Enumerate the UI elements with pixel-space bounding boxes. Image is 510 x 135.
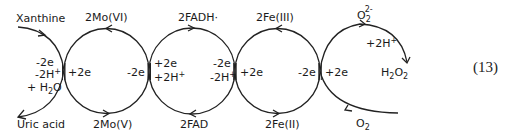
fad-plus2e-label: +2e [154, 57, 177, 70]
superoxide-label: O22- [357, 5, 373, 24]
mo-vi-label: 2Mo(VI) [85, 11, 128, 24]
arrow-o2 [345, 105, 352, 111]
fe-plus2e-label: +2e [240, 66, 263, 79]
fadh-label: 2FADH· [178, 11, 218, 24]
o2-plus2e-label: +2e [325, 66, 348, 79]
fe-iii-label: 2Fe(III) [256, 11, 294, 24]
fe-minus2e-label: -2e [298, 66, 316, 79]
mo-plus2e-label: +2e [68, 66, 91, 79]
fad-label: 2FAD [180, 118, 208, 131]
o2-label: O2 [356, 117, 370, 132]
protons-label: +2H+ [366, 36, 397, 50]
diagram-svg: Xanthine Uric acid -2e -2H+ + H2O 2Mo(VI… [0, 0, 510, 135]
mo-minus2e-label: -2e [127, 66, 145, 79]
equation-number: (13) [473, 59, 498, 76]
uric-acid-label: Uric acid [17, 118, 65, 131]
fad-minus2e-label: -2e [213, 57, 231, 70]
fe-ii-label: 2Fe(II) [265, 118, 300, 131]
h2o2-label: H2O2 [381, 66, 408, 81]
fad-minus2h-label: -2H+ [210, 70, 236, 84]
electron-transfer-diagram: Xanthine Uric acid -2e -2H+ + H2O 2Mo(VI… [0, 0, 510, 135]
fad-plus2h-label: +2H+ [154, 70, 185, 84]
minus-2h-label: -2H+ [35, 67, 61, 81]
xanthine-label: Xanthine [16, 12, 66, 25]
plus-h2o-label: + H2O [27, 81, 62, 96]
mo-v-label: 2Mo(V) [93, 118, 132, 131]
